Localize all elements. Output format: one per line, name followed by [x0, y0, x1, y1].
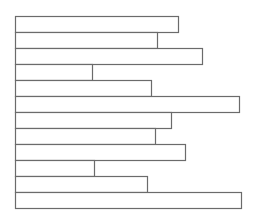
bar-7	[16, 113, 172, 129]
bar-12	[16, 193, 242, 209]
bar-chart	[0, 0, 261, 214]
bar-1	[16, 17, 179, 33]
bar-10	[16, 161, 95, 177]
bar-6	[16, 97, 240, 113]
bar-11	[16, 177, 148, 193]
bar-9	[16, 145, 186, 161]
bar-2	[16, 33, 158, 49]
bar-5	[16, 81, 152, 97]
bar-4	[16, 65, 93, 81]
bar-3	[16, 49, 203, 65]
bar-8	[16, 129, 156, 145]
